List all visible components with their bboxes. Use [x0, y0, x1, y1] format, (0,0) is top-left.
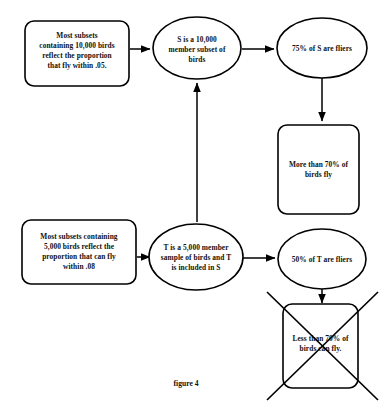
- set-s-line-2: member subset of: [169, 45, 226, 54]
- node-less-than-70[interactable]: Less than 70% of birds can fly.: [283, 304, 358, 388]
- set-s-line-3: birds: [189, 55, 206, 64]
- node-premise-10000[interactable]: Most subsets containing 10,000 birds ref…: [25, 21, 129, 86]
- node-t-fliers[interactable]: 50% of T are fliers: [278, 229, 366, 289]
- premise-10000-line-4: that fly within .05.: [47, 61, 106, 70]
- node-sample-t[interactable]: T is a 5,000 member sample of birds and …: [149, 224, 243, 290]
- more-than-70-line-2: birds fly: [305, 170, 332, 179]
- premise-10000-line-3: reflect the proportion: [42, 51, 112, 60]
- flowchart-canvas: Most subsets containing 10,000 birds ref…: [0, 0, 390, 408]
- node-more-than-70[interactable]: More than 70% of birds fly: [278, 125, 359, 214]
- s-fliers-line-1: 75% of S are fliers: [292, 44, 352, 53]
- sample-t-line-3: is included in S: [171, 263, 220, 272]
- node-premise-5000[interactable]: Most subsets containing 5,000 birds refl…: [22, 220, 136, 284]
- figure-4-flowchart: Most subsets containing 10,000 birds ref…: [0, 0, 390, 408]
- more-than-70-line-1: More than 70% of: [289, 160, 349, 169]
- sample-t-line-1: T is a 5,000 member: [163, 243, 229, 252]
- premise-5000-line-2: 5,000 birds reflect the: [44, 242, 115, 251]
- t-fliers-line-1: 50% of T are fliers: [292, 255, 353, 264]
- less-than-70-line-1: Less than 70% of: [292, 334, 348, 343]
- set-s-line-1: S is a 10,000: [177, 35, 217, 44]
- premise-10000-line-2: containing 10,000 birds: [39, 41, 114, 50]
- figure-caption: figure 4: [174, 379, 199, 388]
- sample-t-line-2: sample of birds and T: [161, 253, 231, 262]
- node-s-fliers[interactable]: 75% of S are fliers: [277, 18, 367, 78]
- premise-5000-line-4: within .08: [63, 262, 95, 271]
- premise-5000-line-3: proportion that can fly: [42, 252, 116, 261]
- premise-5000-line-1: Most subsets containing: [40, 232, 117, 241]
- node-set-s[interactable]: S is a 10,000 member subset of birds: [153, 17, 241, 79]
- premise-10000-line-1: Most subsets: [56, 31, 97, 40]
